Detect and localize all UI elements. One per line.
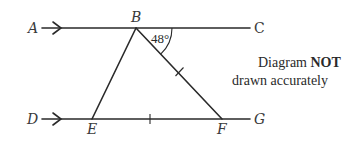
line-be <box>92 28 136 119</box>
angle-label: 48° <box>151 31 169 46</box>
point-label-f: F <box>216 121 228 137</box>
point-label-d: D <box>26 111 38 127</box>
point-label-c: C <box>254 20 265 36</box>
note-line-1: Diagram NOT <box>258 55 341 70</box>
geometry-diagram: A B C D E F G 48° Diagram NOT drawn accu… <box>0 0 348 142</box>
point-label-e: E <box>86 121 97 137</box>
line-bf <box>136 28 222 119</box>
note-line-2: drawn accurately <box>232 73 328 88</box>
point-label-g: G <box>254 111 265 127</box>
point-label-a: A <box>26 20 38 36</box>
point-label-b: B <box>130 9 141 25</box>
